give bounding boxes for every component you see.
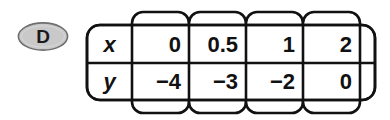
cell-y-0: −4 <box>132 63 189 100</box>
choice-letter: D <box>17 21 69 52</box>
cell-y-1: −3 <box>189 63 246 100</box>
cell-x-0: 0 <box>132 26 189 63</box>
cell-x-3: 2 <box>303 26 360 63</box>
screenshot-root: D <box>0 0 390 120</box>
cell-x-1: 0.5 <box>189 26 246 63</box>
choice-badge-d[interactable]: D <box>17 21 69 52</box>
cell-x-2: 1 <box>246 26 303 63</box>
data-table: x y 0 0.5 1 2 −4 −3 −2 0 <box>80 0 390 120</box>
row-label-x: x <box>87 26 132 63</box>
cell-y-3: 0 <box>303 63 360 100</box>
row-label-y: y <box>87 63 132 100</box>
cell-y-2: −2 <box>246 63 303 100</box>
